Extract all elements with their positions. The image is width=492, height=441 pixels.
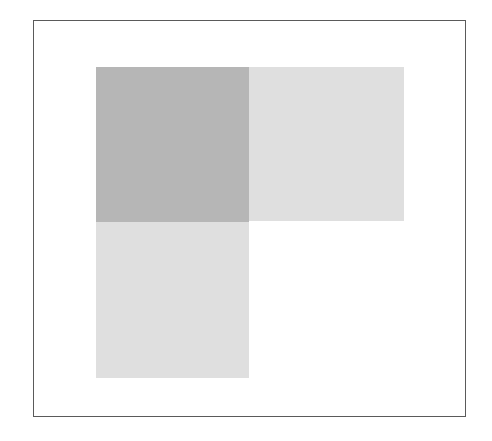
cell-top-right-light [249, 67, 404, 221]
cell-top-left-dark [96, 67, 249, 222]
cell-bottom-left-light [96, 222, 249, 378]
